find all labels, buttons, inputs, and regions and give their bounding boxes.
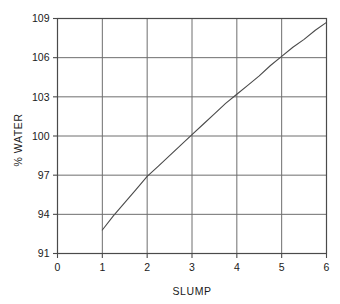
x-tick-label: 0 [55, 261, 61, 273]
y-tick-label: 109 [32, 12, 50, 24]
y-axis-title: % WATER [12, 113, 24, 166]
x-tick-label: 2 [144, 261, 150, 273]
y-tick-label: 97 [38, 169, 50, 181]
x-tick-label: 4 [234, 261, 240, 273]
y-tick-label: 91 [38, 247, 50, 259]
y-tick-label: 106 [32, 51, 50, 63]
x-tick-label: 1 [99, 261, 105, 273]
x-tick-label: 3 [189, 261, 195, 273]
x-tick-label: 5 [279, 261, 285, 273]
x-tick-label: 6 [324, 261, 330, 273]
line-chart: 919497100103106109 0123456 SLUMP % WATER [0, 0, 340, 304]
y-tick-label: 103 [32, 91, 50, 103]
plot-background [0, 0, 340, 304]
y-tick-label: 94 [38, 208, 50, 220]
chart-container: 919497100103106109 0123456 SLUMP % WATER [0, 0, 340, 304]
x-axis-title: SLUMP [172, 285, 211, 297]
y-tick-label: 100 [32, 130, 50, 142]
